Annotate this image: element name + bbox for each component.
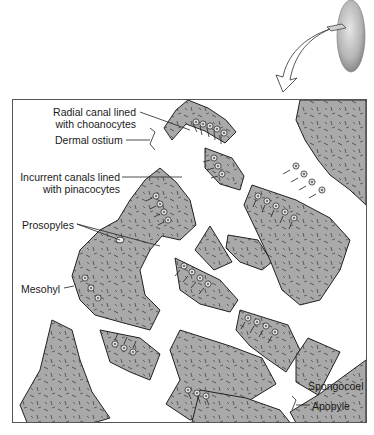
- label-radial-canal: Radial canal lined with choanocytes: [52, 106, 136, 130]
- label-prosopyles: Prosopyles: [22, 219, 74, 231]
- label-incurrent-canals-line1: Incurrent canals lined: [18, 171, 120, 183]
- whole-sponge-inset: [327, 0, 365, 72]
- label-radial-canal-line1: Radial canal lined: [52, 106, 136, 118]
- label-radial-canal-line2: with choanocytes: [52, 118, 136, 130]
- sponge-diagram: [0, 0, 374, 435]
- magnify-arrow-icon: [276, 29, 330, 92]
- label-incurrent-canals-line2: with pinacocytes: [18, 183, 120, 195]
- label-apopyle: Apopyle: [312, 400, 350, 412]
- label-spongocoel: Spongocoel: [308, 380, 363, 392]
- label-dermal-ostium: Dermal ostium: [55, 134, 123, 146]
- label-incurrent-canals: Incurrent canals lined with pinacocytes: [18, 171, 120, 195]
- label-mesohyl: Mesohyl: [21, 283, 60, 295]
